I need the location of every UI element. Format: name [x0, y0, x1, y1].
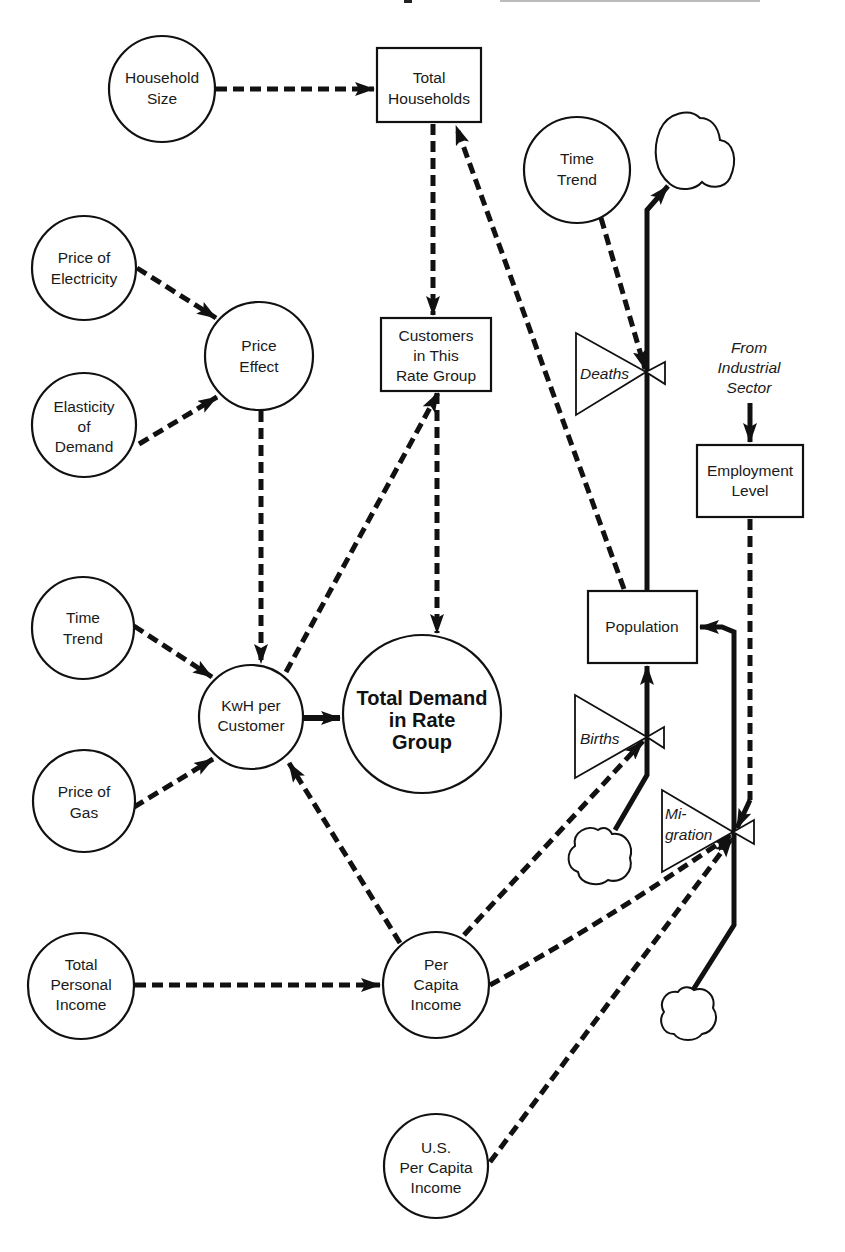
kwh-label-1: KwH per: [221, 697, 280, 714]
link-elasticity-to-price-effect: [139, 397, 217, 444]
kwh-label-2: Customer: [217, 717, 284, 734]
flow-migration-source-to-population: [693, 627, 734, 990]
industrial-note-line2: Industrial: [718, 359, 781, 376]
header-fragment: [404, 0, 760, 3]
employment-label-2: Level: [731, 482, 768, 499]
system-dynamics-diagram: Deaths Births Mi- gration Household Size…: [0, 0, 845, 1252]
population-label: Population: [605, 618, 678, 635]
time-trend-top-label-1: Time: [560, 150, 594, 167]
node-total-demand[interactable]: Total Demand in Rate Group: [343, 635, 501, 793]
deaths-valve: Deaths: [576, 333, 665, 415]
node-employment-level[interactable]: Employment Level: [697, 445, 803, 517]
node-total-households[interactable]: Total Households: [377, 48, 481, 122]
deaths-label: Deaths: [580, 365, 629, 382]
total-households-label-1: Total: [413, 69, 446, 86]
time-trend-top-label-2: Trend: [557, 171, 597, 188]
price-gas-label-2: Gas: [70, 804, 99, 821]
pci-label-3: Income: [411, 996, 462, 1013]
node-household-size[interactable]: Household Size: [109, 36, 215, 142]
material-flows: [615, 186, 734, 990]
uspci-label-1: U.S.: [421, 1139, 451, 1156]
node-time-trend-left[interactable]: Time Trend: [32, 577, 134, 679]
from-industrial-sector-note: From Industrial Sector: [718, 339, 781, 396]
migration-label-line1: Mi-: [665, 805, 687, 822]
node-time-trend-top[interactable]: Time Trend: [524, 117, 630, 223]
node-total-personal-income[interactable]: Total Personal Income: [28, 933, 134, 1039]
migration-valve: Mi- gration: [662, 790, 754, 872]
industrial-note-line3: Sector: [727, 379, 773, 396]
total-demand-label-1: Total Demand: [357, 687, 488, 709]
household-size-label-1: Household: [125, 69, 199, 86]
price-electricity-label-2: Electricity: [51, 270, 118, 287]
births-label: Births: [580, 730, 620, 747]
link-per-capita-to-kwh: [289, 763, 400, 943]
link-price-electricity-to-price-effect: [137, 268, 216, 318]
tpi-label-2: Personal: [50, 976, 111, 993]
household-size-label-2: Size: [147, 90, 177, 107]
customers-label-3: Rate Group: [396, 367, 476, 384]
time-trend-left-label-2: Trend: [63, 630, 103, 647]
price-effect-label-2: Effect: [239, 358, 279, 375]
total-demand-label-3: Group: [392, 731, 452, 753]
node-price-effect[interactable]: Price Effect: [205, 302, 313, 410]
node-per-capita-income[interactable]: Per Capita Income: [383, 932, 489, 1038]
tpi-label-1: Total: [65, 956, 98, 973]
employment-label-1: Employment: [707, 462, 794, 479]
price-gas-label-1: Price of: [58, 783, 111, 800]
elasticity-label-1: Elasticity: [53, 398, 114, 415]
price-electricity-label-1: Price of: [58, 249, 111, 266]
time-trend-left-label-1: Time: [66, 609, 100, 626]
link-time-trend-to-kwh: [134, 626, 212, 677]
node-us-per-capita-income[interactable]: U.S. Per Capita Income: [384, 1114, 488, 1218]
price-effect-label-1: Price: [241, 337, 276, 354]
flow-population-to-deaths-sink: [647, 186, 668, 590]
cloud-migration-source-icon: [661, 987, 716, 1040]
node-customers-in-rate-group[interactable]: Customers in This Rate Group: [381, 318, 491, 391]
node-kwh-per-customer[interactable]: KwH per Customer: [199, 665, 303, 769]
pci-label-1: Per: [424, 956, 448, 973]
pci-label-2: Capita: [414, 976, 459, 993]
elasticity-label-3: Demand: [55, 438, 114, 455]
tpi-label-3: Income: [56, 996, 107, 1013]
node-elasticity-of-demand[interactable]: Elasticity of Demand: [32, 373, 136, 477]
node-price-of-electricity[interactable]: Price of Electricity: [32, 216, 136, 320]
cloud-births-source-icon: [569, 828, 631, 884]
link-kwh-to-customers: [286, 393, 438, 672]
uspci-label-2: Per Capita: [399, 1159, 473, 1176]
link-time-trend-to-deaths: [601, 218, 645, 369]
link-price-gas-to-kwh: [134, 759, 213, 807]
elasticity-label-2: of: [78, 418, 92, 435]
total-households-label-2: Households: [388, 90, 470, 107]
migration-label-line2: gration: [665, 826, 712, 843]
cloud-deaths-sink-icon: [656, 113, 734, 189]
customers-label-2: in This: [413, 347, 459, 364]
total-demand-label-2: in Rate: [389, 709, 456, 731]
node-population[interactable]: Population: [588, 591, 697, 663]
uspci-label-3: Income: [411, 1179, 462, 1196]
industrial-note-line1: From: [731, 339, 767, 356]
node-price-of-gas[interactable]: Price of Gas: [33, 750, 135, 852]
customers-label-1: Customers: [399, 327, 474, 344]
